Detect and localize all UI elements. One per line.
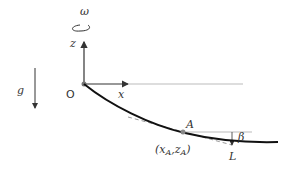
beta-label: β <box>237 131 244 144</box>
rotation-arrow-icon <box>73 25 90 31</box>
point-A <box>181 130 186 135</box>
origin-label: O <box>66 88 75 101</box>
L-label: L <box>228 150 236 163</box>
gravity-label: g <box>17 84 24 97</box>
point-A-coordinates: (xA,zA) <box>155 143 191 157</box>
x-axis-label: x <box>118 88 125 101</box>
diagram-canvas: ω z x O g A (xA,zA) β L <box>0 0 292 170</box>
point-A-label: A <box>185 118 194 131</box>
omega-label: ω <box>80 5 89 18</box>
z-axis-label: z <box>69 37 76 50</box>
